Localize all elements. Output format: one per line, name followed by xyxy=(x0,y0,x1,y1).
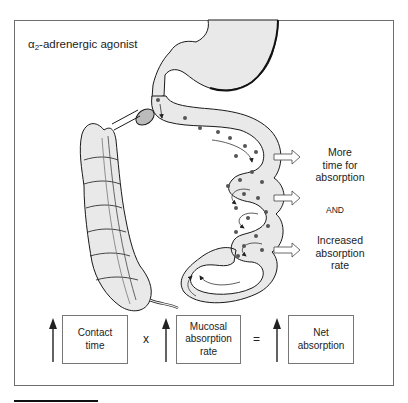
multiply-operator: x xyxy=(143,332,149,346)
up-arrow-icon xyxy=(161,318,171,362)
colon-shape xyxy=(80,124,151,311)
effect-line: Increased xyxy=(296,234,384,247)
contact-time-box: Contacttime xyxy=(62,315,128,364)
and-connector: AND xyxy=(326,205,344,215)
up-arrow-icon xyxy=(48,318,58,362)
box-line: Mucosal xyxy=(185,321,232,334)
box-line: Net xyxy=(298,327,345,340)
effect-more-time: More time for absorption xyxy=(296,146,384,184)
effect-increased-rate: Increased absorption rate xyxy=(296,234,384,272)
net-absorption-box: Netabsorption xyxy=(288,315,354,364)
equals-operator: = xyxy=(253,332,260,346)
box-line: rate xyxy=(185,346,232,359)
up-arrow-icon xyxy=(272,318,282,362)
effect-line: absorption xyxy=(296,171,384,184)
box-line: absorption xyxy=(298,340,345,353)
box-line: Contact xyxy=(78,327,112,340)
effect-line: rate xyxy=(296,259,384,272)
effect-line: More xyxy=(296,146,384,159)
box-line: absorption xyxy=(185,333,232,346)
mucosal-absorption-rate-box: Mucosalabsorptionrate xyxy=(176,315,241,364)
effect-line: time for xyxy=(296,159,384,172)
footnote-rule xyxy=(14,400,98,402)
box-line: time xyxy=(78,340,112,353)
stomach-shape xyxy=(152,20,278,98)
effect-line: absorption xyxy=(296,247,384,260)
small-intestine-shape xyxy=(152,96,284,303)
